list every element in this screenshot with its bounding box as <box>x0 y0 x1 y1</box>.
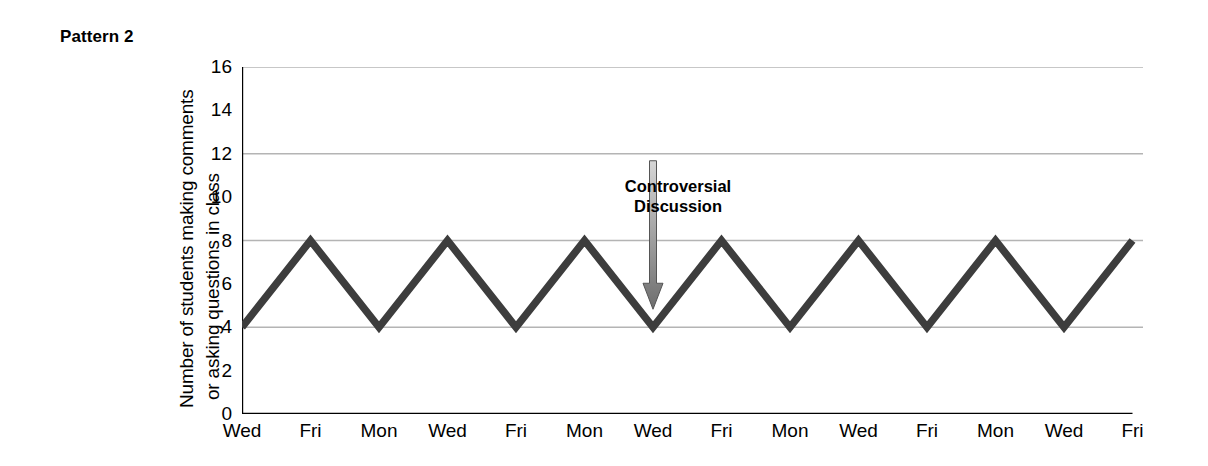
x-axis-tick-label: Mon <box>361 420 398 442</box>
figure-pattern-2: Pattern 2 Number of students making comm… <box>0 0 1208 466</box>
y-axis-tick-label: 4 <box>221 316 232 338</box>
y-axis-tick-label: 14 <box>211 99 232 121</box>
x-axis-tick-label: Mon <box>977 420 1014 442</box>
y-axis-tick-label: 2 <box>221 360 232 382</box>
x-axis-tick-labels: WedFriMonWedFriMonWedFriMonWedFriMonWedF… <box>242 420 1143 450</box>
annotation-label-line-1: Controversial <box>625 176 731 196</box>
x-axis-tick-label: Fri <box>916 420 938 442</box>
x-axis-tick-label: Wed <box>223 420 262 442</box>
y-axis-tick-label: 6 <box>221 273 232 295</box>
annotation-label-line-2: Discussion <box>625 196 731 216</box>
x-axis-tick-label: Wed <box>428 420 467 442</box>
y-axis-tick-label: 16 <box>211 56 232 78</box>
y-axis-tick-label: 8 <box>221 230 232 252</box>
data-series-line <box>242 241 1133 328</box>
y-axis-tick-label: 10 <box>211 186 232 208</box>
x-axis-tick-label: Fri <box>710 420 732 442</box>
x-axis-tick-label: Wed <box>1045 420 1084 442</box>
plot-area <box>242 67 1143 414</box>
data-line <box>242 241 1133 328</box>
page-title: Pattern 2 <box>60 27 134 47</box>
y-axis-tick-labels: 0246810121416 <box>186 67 232 414</box>
annotation-label: Controversial Discussion <box>625 176 731 216</box>
x-axis-tick-label: Fri <box>1121 420 1143 442</box>
x-axis-tick-label: Mon <box>566 420 603 442</box>
x-axis-tick-label: Mon <box>772 420 809 442</box>
x-axis-tick-label: Wed <box>839 420 878 442</box>
x-axis-tick-label: Fri <box>299 420 321 442</box>
x-axis-tick-label: Wed <box>634 420 673 442</box>
y-axis-tick-label: 12 <box>211 143 232 165</box>
x-axis-tick-label: Fri <box>505 420 527 442</box>
